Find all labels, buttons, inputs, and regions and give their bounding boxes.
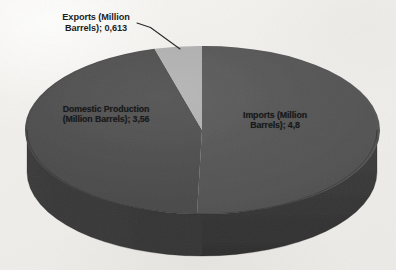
pie-chart-canvas — [0, 0, 396, 270]
slice-label-imports: Imports (Million Barrels); 4,8 — [219, 110, 331, 131]
slice-label-domestic-production: Domestic Production (Million Barrels); 3… — [44, 104, 168, 125]
scan-grain-overlay — [0, 0, 396, 270]
slice-label-exports: Exports (Million Barrels); 0,613 — [44, 12, 148, 34]
pie-chart-figure: Exports (Million Barrels); 0,613 Domesti… — [0, 0, 396, 270]
